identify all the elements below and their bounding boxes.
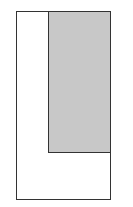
shaded-rectangle	[48, 11, 111, 153]
